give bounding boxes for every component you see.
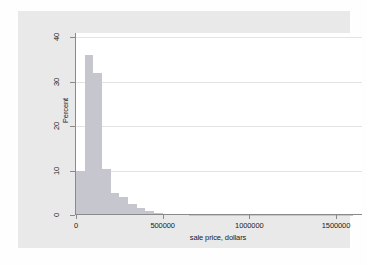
x-tick-1500000 xyxy=(336,215,337,219)
x-tick-label-1000000: 1000000 xyxy=(219,221,279,230)
histogram-bar xyxy=(119,197,128,215)
plot-panel xyxy=(76,33,362,215)
x-axis-title: sale price, dollars xyxy=(138,233,298,242)
histogram-bar xyxy=(93,73,102,215)
gridline-y-30 xyxy=(76,82,362,83)
gridline-y-40 xyxy=(76,37,362,38)
y-tick-label-40: 40 xyxy=(53,27,61,47)
gridline-y-10 xyxy=(76,171,362,172)
histogram-bar xyxy=(85,55,94,215)
histogram-bar xyxy=(102,169,111,215)
y-tick-40 xyxy=(70,37,75,38)
y-tick-10 xyxy=(70,171,75,172)
x-tick-0 xyxy=(76,215,77,219)
histogram-bar xyxy=(111,193,120,215)
x-axis-line xyxy=(75,214,362,215)
graph-region: 010203040 050000010000001500000 Percent … xyxy=(18,11,350,248)
y-axis-title: Percent xyxy=(61,87,70,135)
y-tick-0 xyxy=(70,215,75,216)
x-tick-500000 xyxy=(163,215,164,219)
x-tick-label-0: 0 xyxy=(46,221,106,230)
x-tick-label-1500000: 1500000 xyxy=(306,221,366,230)
histogram-bar xyxy=(76,171,85,215)
figure-canvas: 010203040 050000010000001500000 Percent … xyxy=(0,0,367,266)
gridline-y-20 xyxy=(76,126,362,127)
x-tick-1000000 xyxy=(249,215,250,219)
y-axis-line xyxy=(75,33,76,215)
x-tick-label-500000: 500000 xyxy=(133,221,193,230)
y-tick-30 xyxy=(70,82,75,83)
y-tick-label-10: 10 xyxy=(53,161,61,181)
y-tick-20 xyxy=(70,126,75,127)
